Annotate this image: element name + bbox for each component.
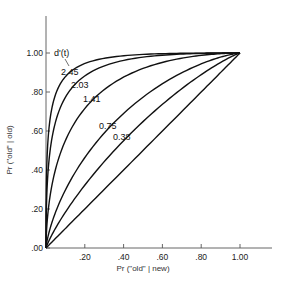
y-tick-label: .60	[31, 126, 43, 136]
y-tick-label: .00	[31, 243, 43, 253]
curve-label-0.38: 0.38	[113, 132, 131, 142]
curve-label-0.75: 0.75	[99, 121, 117, 131]
y-axis-title: Pr ("old" | old)	[5, 125, 14, 174]
x-tick-label: 1.00	[232, 252, 249, 262]
curve-label-1.41: 1.41	[83, 94, 101, 104]
curve-label-2.03: 2.03	[71, 80, 89, 90]
curve-label-2.45: 2.45	[61, 67, 79, 77]
legend-title-leader	[65, 59, 69, 66]
x-tick-label: .20	[79, 252, 91, 262]
y-tick-label: .20	[31, 204, 43, 214]
y-tick-label: .40	[31, 165, 43, 175]
legend-title: d'(t)	[54, 48, 69, 58]
x-axis-title: Pr ("old" | new)	[116, 264, 169, 273]
x-tick-label: .40	[118, 252, 130, 262]
x-ticks: .20.40.60.801.00	[79, 244, 249, 262]
x-tick-label: .80	[195, 252, 207, 262]
y-tick-label: 1.00	[26, 48, 43, 58]
x-tick-label: .60	[156, 252, 168, 262]
roc-chart: .00.20.40.60.801.00 .20.40.60.801.00 Pr …	[0, 0, 286, 287]
y-tick-label: .80	[31, 87, 43, 97]
